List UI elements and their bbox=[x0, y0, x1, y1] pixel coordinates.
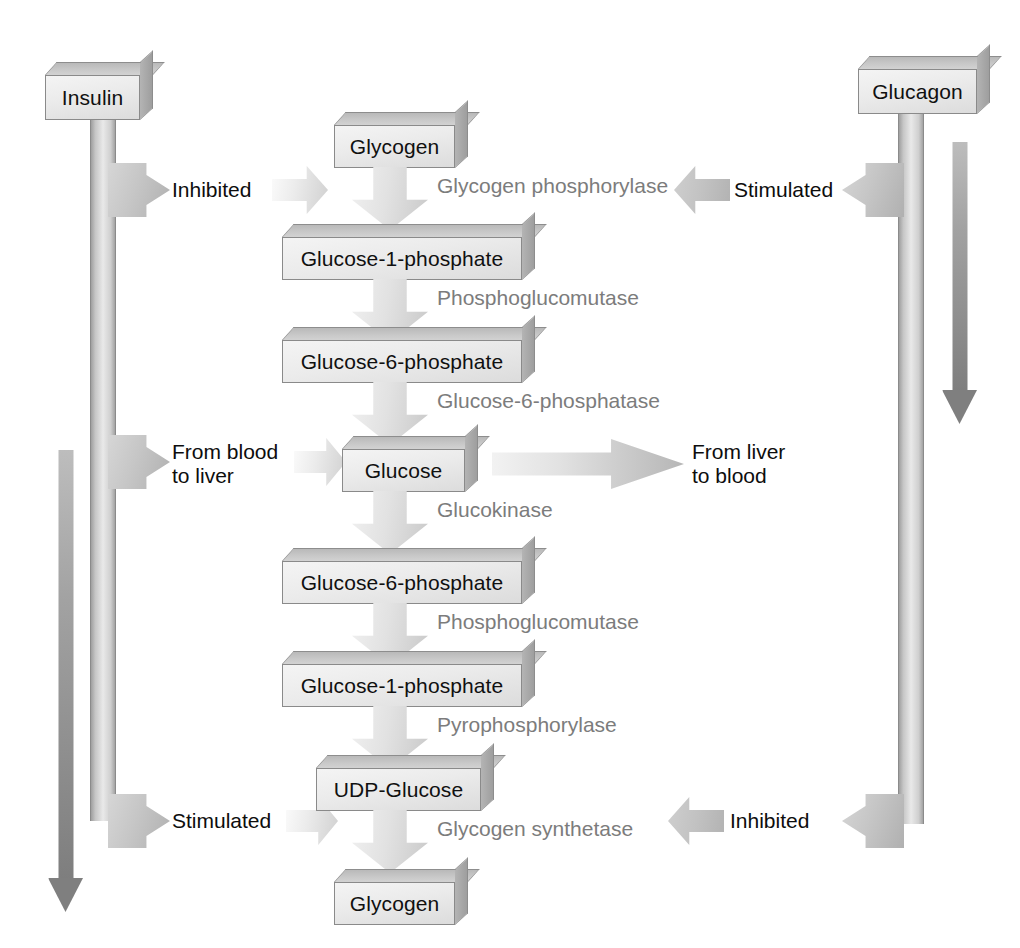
glucagon-inhibited-label: Inhibited bbox=[730, 809, 809, 833]
box-top-face bbox=[282, 327, 547, 340]
metabolite-box-glycogen-top: Glycogen bbox=[334, 112, 468, 168]
glucose-export-arrow bbox=[492, 439, 684, 489]
inhibit-phosphorylase-arrow bbox=[272, 166, 328, 214]
enzyme-label-pyrophosphorylase: Pyrophosphorylase bbox=[437, 713, 617, 737]
box-side-face bbox=[481, 743, 494, 811]
enzyme-label-glycogen-synthetase: Glycogen synthetase bbox=[437, 817, 633, 841]
metabolite-label: Glycogen bbox=[334, 882, 455, 925]
box-side-face bbox=[522, 639, 535, 707]
glucagon-decline-arrow-head bbox=[942, 390, 977, 424]
box-side-face bbox=[522, 536, 535, 604]
glucagon-box: Glucagon bbox=[858, 56, 990, 114]
insulin-label: Insulin bbox=[45, 75, 140, 120]
box-side-face bbox=[465, 424, 478, 492]
insulin-decline-arrow-head bbox=[48, 878, 83, 912]
glucagon-stem bbox=[898, 112, 924, 824]
stimulate-phosphorylase-arrow bbox=[674, 166, 730, 214]
metabolite-label: Glucose-6-phosphate bbox=[282, 340, 522, 383]
metabolite-box-udp-glucose: UDP-Glucose bbox=[316, 755, 494, 811]
glucagon-stimulated-label: Stimulated bbox=[734, 178, 833, 202]
from-liver-to-blood-label: From liver to blood bbox=[692, 440, 785, 488]
insulin-box: Insulin bbox=[45, 62, 153, 120]
glucagon-box-side-face bbox=[977, 44, 990, 114]
glucagon-decline-arrow-shaft bbox=[952, 142, 967, 392]
metabolite-box-g6p-upper: Glucose-6-phosphate bbox=[282, 327, 535, 383]
box-side-face bbox=[455, 100, 468, 168]
glucose-uptake-arrow bbox=[294, 438, 346, 486]
insulin-stimulate-branch-arrow bbox=[108, 794, 170, 848]
from-blood-to-liver-label: From blood to liver bbox=[172, 440, 278, 488]
metabolite-box-g6p-lower: Glucose-6-phosphate bbox=[282, 548, 535, 604]
insulin-inhibit-branch-arrow bbox=[108, 163, 170, 217]
box-top-face bbox=[282, 224, 547, 237]
insulin-uptake-branch-arrow bbox=[108, 435, 170, 489]
metabolite-label: Glucose-1-phosphate bbox=[282, 237, 522, 280]
enzyme-label-phosphoglucomutase-upper: Phosphoglucomutase bbox=[437, 286, 639, 310]
box-top-face bbox=[316, 755, 506, 768]
metabolite-label: Glucose bbox=[342, 449, 465, 492]
metabolite-label: UDP-Glucose bbox=[316, 768, 481, 811]
enzyme-label-glucose-6-phosphatase: Glucose-6-phosphatase bbox=[437, 389, 660, 413]
box-side-face bbox=[522, 212, 535, 280]
enzyme-label-glycogen-phosphorylase: Glycogen phosphorylase bbox=[437, 174, 668, 198]
metabolite-box-glucose: Glucose bbox=[342, 436, 478, 492]
insulin-inhibited-label: Inhibited bbox=[172, 178, 251, 202]
glucagon-label: Glucagon bbox=[858, 69, 977, 114]
glucagon-stimulate-branch-arrow bbox=[842, 163, 904, 217]
inhibit-synthetase-arrow bbox=[668, 797, 724, 845]
glucagon-decline-arrow bbox=[942, 142, 977, 424]
insulin-decline-arrow-shaft bbox=[58, 450, 73, 880]
box-top-face bbox=[282, 548, 547, 561]
glucagon-inhibit-branch-arrow bbox=[842, 794, 904, 848]
reaction-arrow-e0 bbox=[352, 167, 428, 230]
enzyme-label-glucokinase: Glucokinase bbox=[437, 498, 553, 522]
insulin-stimulated-label: Stimulated bbox=[172, 809, 271, 833]
metabolite-label: Glucose-6-phosphate bbox=[282, 561, 522, 604]
reaction-arrow-e6 bbox=[352, 810, 428, 873]
insulin-box-side-face bbox=[140, 50, 153, 120]
box-side-face bbox=[455, 857, 468, 925]
enzyme-label-phosphoglucomutase-lower: Phosphoglucomutase bbox=[437, 610, 639, 634]
box-side-face bbox=[522, 315, 535, 383]
insulin-decline-arrow bbox=[48, 450, 83, 912]
box-top-face bbox=[282, 651, 547, 664]
metabolite-box-g1p-upper: Glucose-1-phosphate bbox=[282, 224, 535, 280]
metabolite-box-g1p-lower: Glucose-1-phosphate bbox=[282, 651, 535, 707]
metabolite-box-glycogen-bottom: Glycogen bbox=[334, 869, 468, 925]
diagram-canvas: Insulin Inhibited From blood to liver St… bbox=[0, 0, 1020, 948]
metabolite-label: Glycogen bbox=[334, 125, 455, 168]
metabolite-label: Glucose-1-phosphate bbox=[282, 664, 522, 707]
reaction-arrow-e3 bbox=[352, 491, 428, 554]
